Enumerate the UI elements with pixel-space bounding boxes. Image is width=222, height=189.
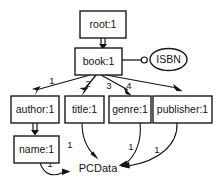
node-isbn-label: ISBN [156,53,181,65]
node-book-label: book:1 [83,55,115,67]
edge-book-author [32,75,90,96]
node-pcdata[interactable]: PCData [79,162,118,174]
node-title-label: title:1 [72,103,97,115]
node-name-label: name:1 [19,143,54,155]
edge-label-book-publisher: 4 [126,80,131,91]
edge-label-publisher-pcdata: 1 [154,144,159,155]
attribute-connector-circle [141,57,147,63]
node-author-label: author:1 [16,103,55,115]
node-name[interactable]: name:1 [14,136,59,163]
node-isbn[interactable]: ISBN [150,49,187,71]
node-author[interactable]: author:1 [11,96,59,123]
node-root-label: root:1 [90,18,117,30]
node-publisher[interactable]: publisher:1 [153,96,212,123]
node-genre-label: genre:1 [112,103,148,115]
edge-title-pcdata [82,123,99,160]
graph-canvas: 1 2 3 4 1 1 1 1 root:1 book:1 ISBN autho… [0,0,222,189]
node-pcdata-label: PCData [79,162,118,174]
edge-author-name [31,123,39,136]
node-publisher-label: publisher:1 [157,103,209,115]
node-title[interactable]: title:1 [65,96,104,123]
node-genre[interactable]: genre:1 [109,96,151,123]
edge-label-book-title: 2 [85,78,90,89]
edge-label-title-pcdata: 1 [67,139,72,150]
edge-label-genre-pcdata: 1 [128,141,133,152]
node-book[interactable]: book:1 [75,48,122,75]
edge-book-isbn [122,57,147,63]
edge-label-book-genre: 3 [106,80,111,91]
dtd-graph-diagram: 1 2 3 4 1 1 1 1 root:1 book:1 ISBN autho… [0,0,222,189]
edge-name-pcdata [40,163,71,175]
node-root[interactable]: root:1 [80,11,126,38]
edge-book-publisher [106,75,183,91]
edge-label-book-author: 1 [49,75,54,86]
